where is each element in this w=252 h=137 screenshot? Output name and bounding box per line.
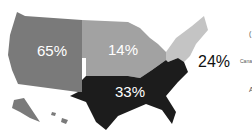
label-midwest: 14% — [108, 41, 138, 58]
region-hawaii[interactable] — [51, 112, 68, 124]
label-south: 33% — [115, 83, 145, 100]
label-west: 65% — [37, 42, 67, 59]
region-alaska[interactable] — [12, 98, 40, 122]
canada-label-partial: Cana — [240, 58, 252, 64]
edge-glyph-bottom: A — [249, 86, 252, 93]
label-northeast: 24% — [198, 53, 230, 71]
edge-glyph-top: ( — [249, 30, 251, 37]
